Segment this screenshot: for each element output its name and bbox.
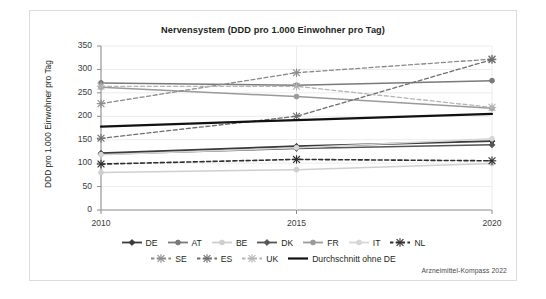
legend-marker-group [356,240,361,245]
legend-marker-group [248,254,257,263]
legend-marker-group [157,254,166,263]
legend-label: BE [236,239,247,248]
data-point-marker [97,99,106,108]
legend-marker-group [202,254,211,263]
legend-marker-group [311,240,316,245]
legend-item-de[interactable]: DE [121,237,158,250]
data-point-marker [294,167,299,172]
legend-swatch-wrap [287,253,309,266]
legend-swatch [211,237,233,248]
legend-item-es[interactable]: ES [196,253,232,266]
legend-marker-group [219,240,224,245]
legend-marker-group [175,240,180,245]
legend-label: NL [414,239,425,248]
data-point-marker [175,240,180,245]
chart-figure: Nervensystem (DDD pro 1.000 Einwohner pr… [29,10,517,281]
data-point-marker [490,136,495,141]
legend-swatch [167,237,189,248]
legend-swatch [256,237,278,248]
legend-item-dk[interactable]: DK [256,237,293,250]
data-point-marker [202,254,211,263]
data-point-marker [356,240,361,245]
legend-swatch-wrap [302,237,324,250]
data-point-marker [488,103,497,112]
data-point-marker [219,240,224,245]
legend-label: Durchschnitt ohne DE [312,255,396,264]
data-point-marker [97,82,106,91]
data-point-marker [488,55,497,64]
legend-label: FR [327,239,338,248]
data-point-marker [294,94,299,99]
chart-legend: DEATBEDKFRITNLSEESUKDurchschnitt ohne DE [30,237,516,265]
legend-row: DEATBEDKFRITNL [30,237,516,249]
legend-label: SE [175,255,186,264]
legend-label: UK [266,255,278,264]
legend-swatch-wrap [211,237,233,250]
data-point-marker [97,134,106,143]
data-point-marker [157,254,166,263]
data-point-marker [294,145,299,150]
data-point-marker [490,78,495,83]
legend-row: SEESUKDurchschnitt ohne DE [30,253,516,265]
legend-label: DE [146,239,158,248]
data-point-marker [311,240,316,245]
legend-item-be[interactable]: BE [211,237,247,250]
data-point-marker [129,239,135,245]
legend-label: IT [373,239,381,248]
data-point-marker [248,254,257,263]
source-note: Arzneimittel-Kompass 2022 [421,267,507,274]
legend-swatch-wrap [150,253,172,266]
legend-item-fr[interactable]: FR [302,237,338,250]
legend-marker-group [129,239,135,245]
legend-label: ES [221,255,232,264]
data-point-marker [97,160,106,169]
legend-swatch-wrap [241,253,263,266]
legend-item-nl[interactable]: NL [389,237,425,250]
data-point-marker [489,142,495,148]
legend-item-at[interactable]: AT [167,237,202,250]
legend-swatch-wrap [348,237,370,250]
legend-swatch [121,237,143,248]
data-point-marker [488,157,497,166]
data-point-marker [99,170,104,175]
legend-swatch-wrap [167,237,189,250]
data-point-marker [264,239,270,245]
legend-swatch [302,237,324,248]
data-point-marker [292,155,301,164]
legend-item-durchschnitt-ohne-de[interactable]: Durchschnitt ohne DE [287,253,396,266]
data-point-marker [396,238,405,247]
legend-item-it[interactable]: IT [348,237,381,250]
legend-marker-group [396,238,405,247]
legend-swatch [196,253,218,264]
legend-swatch-wrap [121,237,143,250]
legend-swatch-wrap [256,237,278,250]
legend-marker-group [264,239,270,245]
legend-swatch-wrap [196,253,218,266]
legend-label: AT [192,239,202,248]
legend-swatch [150,253,172,264]
legend-label: DK [281,239,293,248]
legend-item-uk[interactable]: UK [241,253,278,266]
legend-swatch [287,253,309,264]
legend-swatch [348,237,370,248]
legend-swatch [389,237,411,248]
data-point-marker [292,82,301,91]
legend-swatch-wrap [389,237,411,250]
legend-item-se[interactable]: SE [150,253,186,266]
data-point-marker [292,68,301,77]
data-point-marker [99,152,104,157]
legend-swatch [241,253,263,264]
